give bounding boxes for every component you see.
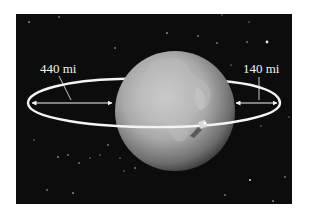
label-right-distance: 140 mi (243, 61, 280, 76)
label-left-distance: 440 mi (40, 61, 77, 76)
earth (115, 51, 235, 171)
orbit-diagram: 440 mi 140 mi (0, 0, 309, 216)
